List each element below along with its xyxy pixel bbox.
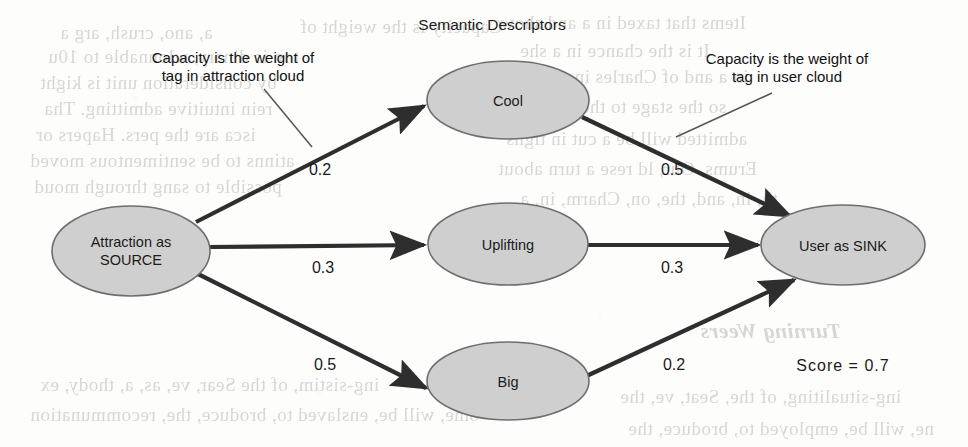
- node-tag-cool-label: Cool: [493, 93, 523, 109]
- annotation-left-leader-line: [264, 89, 312, 147]
- annotation-right-leader-line: [676, 93, 772, 137]
- node-attraction-source[interactable]: Attraction as SOURCE: [52, 206, 210, 296]
- edge-label-source-to-uplifting: 0.3: [312, 259, 334, 276]
- node-attraction-source-label-line2: SOURCE: [100, 252, 162, 268]
- score-label: Score = 0.7: [796, 357, 889, 374]
- annotation-left-line2: tag in attraction cloud: [162, 67, 305, 84]
- edge-source-to-big: [196, 273, 426, 388]
- node-tag-cool[interactable]: Cool: [427, 61, 589, 139]
- node-user-sink-label: User as SINK: [799, 238, 887, 254]
- node-user-sink[interactable]: User as SINK: [761, 205, 925, 285]
- node-attraction-source-shape[interactable]: [52, 206, 210, 296]
- edge-big-to-sink: [580, 280, 794, 379]
- annotation-right: Capacity is the weight of tag in user cl…: [676, 50, 869, 137]
- page-title: Semantic Descriptors: [418, 16, 566, 33]
- node-tag-big-label: Big: [498, 374, 519, 390]
- nodes-group: Attraction as SOURCE Cool Uplifting Big …: [52, 61, 925, 420]
- annotation-left: Capacity is the weight of tag in attract…: [152, 49, 315, 147]
- annotation-right-line2: tag in user cloud: [732, 68, 842, 85]
- edge-source-to-uplifting: [210, 245, 424, 247]
- node-tag-uplifting-label: Uplifting: [482, 237, 534, 253]
- annotation-right-line1: Capacity is the weight of: [706, 50, 869, 67]
- flow-network-diagram: Attraction as SOURCE Cool Uplifting Big …: [0, 0, 968, 447]
- node-tag-uplifting[interactable]: Uplifting: [428, 203, 588, 285]
- edge-label-source-to-cool: 0.2: [309, 161, 331, 178]
- edge-label-cool-to-sink: 0.5: [661, 161, 683, 178]
- edge-label-big-to-sink: 0.2: [663, 356, 685, 373]
- node-attraction-source-label-line1: Attraction as: [91, 234, 172, 250]
- edge-label-source-to-big: 0.5: [314, 356, 336, 373]
- scanned-page: a, ano, crush, arg aCapacity is the weig…: [0, 0, 968, 447]
- annotation-left-line1: Capacity is the weight of: [152, 49, 315, 66]
- node-tag-big[interactable]: Big: [427, 342, 589, 420]
- edge-label-uplifting-to-sink: 0.3: [661, 259, 683, 276]
